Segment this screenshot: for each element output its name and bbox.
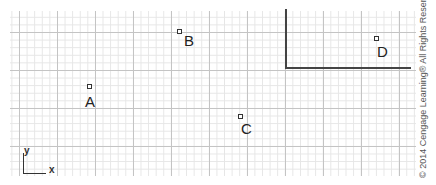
point-a-marker (87, 84, 92, 89)
axis-indicator (23, 153, 46, 174)
point-c-label: C (241, 120, 252, 137)
point-c-marker (238, 114, 243, 119)
point-d-label: D (377, 43, 388, 60)
point-b-marker (177, 29, 182, 34)
point-a-label: A (85, 93, 95, 110)
copyright-notice: © 2014 Cengage Learning® All Rights Rese… (418, 0, 428, 178)
axis-x-label: x (49, 164, 55, 175)
corner-vertical-line (285, 9, 287, 69)
point-d-marker (374, 36, 379, 41)
grid-paper (10, 11, 416, 176)
corner-horizontal-line (285, 67, 411, 69)
point-b-label: B (184, 32, 194, 49)
axis-y-label: y (24, 145, 30, 156)
